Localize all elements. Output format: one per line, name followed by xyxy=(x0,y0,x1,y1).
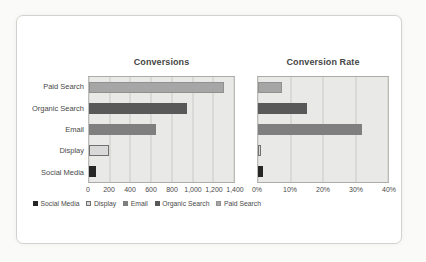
x-tick-label: 200 xyxy=(103,186,115,193)
x-tick-label: 400 xyxy=(124,186,136,193)
x-tick-label: 600 xyxy=(145,186,157,193)
legend-label: Display xyxy=(94,200,116,207)
legend-entry: Display xyxy=(86,200,116,207)
bar-organic-search xyxy=(89,103,187,114)
x-tick-label: 1,200 xyxy=(205,186,223,193)
bar-email xyxy=(258,124,362,135)
bar-social-media xyxy=(258,166,263,177)
x-tick-label: 10% xyxy=(283,186,297,193)
x-tick-label: 40% xyxy=(382,186,396,193)
chart-title: Conversions xyxy=(88,57,235,67)
bar-display xyxy=(258,145,261,156)
legend-marker-icon xyxy=(123,201,128,206)
legend-marker-icon xyxy=(216,201,221,206)
plot-area xyxy=(88,76,235,183)
legend-marker-icon xyxy=(155,201,160,206)
chart-card: Conversions Paid SearchOrganic SearchEma… xyxy=(16,15,402,244)
category-label: Organic Search xyxy=(21,97,84,118)
legend-label: Organic Search xyxy=(162,200,209,207)
category-axis-labels: Paid SearchOrganic SearchEmailDisplaySoc… xyxy=(21,76,84,183)
x-axis-tick-labels: 0%10%20%30%40% xyxy=(257,186,389,196)
legend-label: Paid Search xyxy=(224,200,261,207)
bar-paid-search xyxy=(258,82,282,93)
gridline xyxy=(234,77,235,182)
x-axis-tick-labels: 02004006008001,0001,2001,400 xyxy=(88,186,235,196)
page-background: Conversions Paid SearchOrganic SearchEma… xyxy=(0,0,426,262)
x-tick-label: 20% xyxy=(316,186,330,193)
legend-label: Email xyxy=(131,200,148,207)
category-label: Email xyxy=(21,119,84,140)
plot-area xyxy=(257,76,389,183)
gridline xyxy=(388,77,389,182)
bar-display xyxy=(89,145,109,156)
legend-entry: Paid Search xyxy=(216,200,261,207)
x-tick-label: 0 xyxy=(86,186,90,193)
x-tick-label: 1,000 xyxy=(184,186,202,193)
bar-social-media xyxy=(89,166,96,177)
category-label: Display xyxy=(21,140,84,161)
x-tick-label: 30% xyxy=(349,186,363,193)
x-tick-label: 1,400 xyxy=(226,186,244,193)
x-tick-label: 0% xyxy=(252,186,262,193)
bar-paid-search xyxy=(89,82,224,93)
bar-organic-search xyxy=(258,103,307,114)
category-label: Paid Search xyxy=(21,76,84,97)
category-label: Social Media xyxy=(21,162,84,183)
x-tick-label: 800 xyxy=(166,186,178,193)
chart-title: Conversion Rate xyxy=(257,57,389,67)
chart-legend: Social MediaDisplayEmailOrganic SearchPa… xyxy=(33,200,261,207)
legend-marker-icon xyxy=(33,201,38,206)
legend-label: Social Media xyxy=(41,200,80,207)
legend-entry: Organic Search xyxy=(155,200,210,207)
bar-email xyxy=(89,124,156,135)
legend-entry: Social Media xyxy=(33,200,79,207)
legend-marker-icon xyxy=(86,201,91,206)
legend-entry: Email xyxy=(123,200,148,207)
